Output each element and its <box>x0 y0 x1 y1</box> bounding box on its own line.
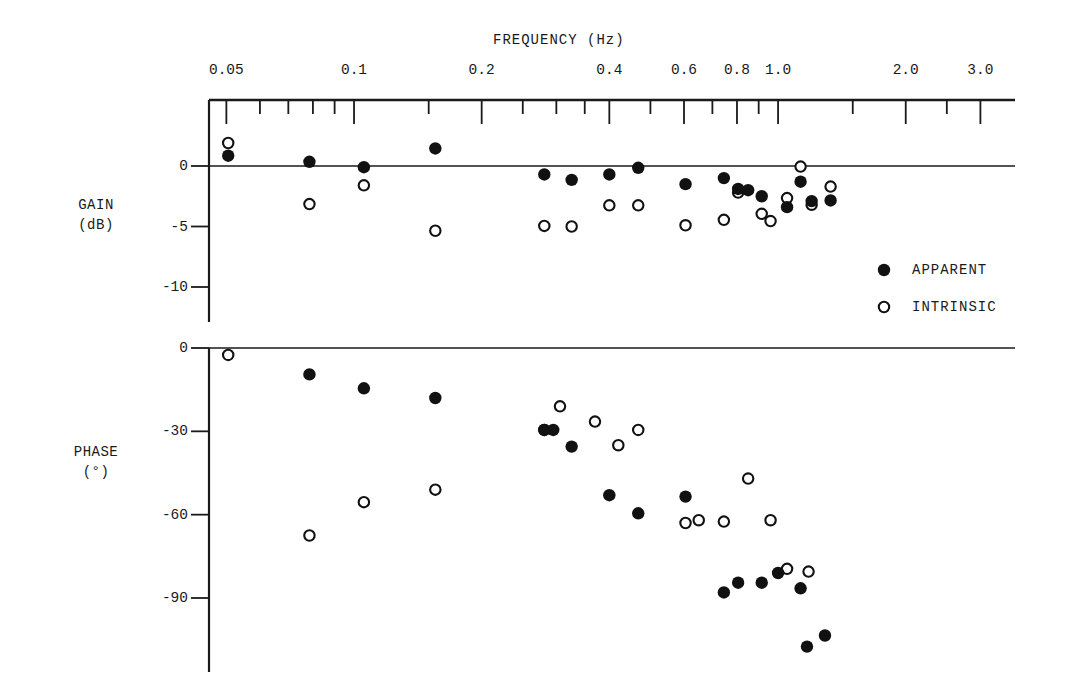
phase-intrinsic-point-9 <box>680 518 690 528</box>
gain-apparent-point-0 <box>222 150 234 162</box>
legend-markers <box>878 264 890 312</box>
gain-intrinsic-point-3 <box>430 226 440 236</box>
phase-apparent-point-12 <box>772 567 784 579</box>
gain-apparent-point-12 <box>756 190 768 202</box>
gain-intrinsic-point-0 <box>223 138 233 148</box>
phase-apparent-point-2 <box>429 392 441 404</box>
phase-apparent-point-10 <box>732 577 744 589</box>
gain-intrinsic-point-9 <box>719 215 729 225</box>
gain-intrinsic-point-16 <box>825 181 835 191</box>
phase-intrinsic-point-11 <box>719 516 729 526</box>
gain-apparent-point-6 <box>603 168 615 180</box>
phase-intrinsic-point-7 <box>613 440 623 450</box>
phase-intrinsic-point-2 <box>359 497 369 507</box>
phase-intrinsic-point-0 <box>223 350 233 360</box>
phase-apparent-point-4 <box>547 424 559 436</box>
phase-intrinsic-point-6 <box>590 416 600 426</box>
gain-apparent-point-13 <box>781 201 793 213</box>
gain-intrinsic-point-1 <box>304 199 314 209</box>
phase-intrinsic-point-10 <box>694 515 704 525</box>
gain-apparent-point-11 <box>742 184 754 196</box>
gain-apparent-point-2 <box>358 161 370 173</box>
phase-apparent-point-6 <box>603 489 615 501</box>
phase-intrinsic-point-12 <box>743 473 753 483</box>
gain-data-points <box>222 138 837 236</box>
gain-apparent-point-3 <box>429 142 441 154</box>
gain-apparent-point-9 <box>718 172 730 184</box>
phase-apparent-point-9 <box>718 586 730 598</box>
phase-apparent-point-15 <box>819 629 831 641</box>
gain-intrinsic-point-14 <box>795 161 805 171</box>
gain-intrinsic-point-6 <box>604 200 614 210</box>
phase-apparent-point-1 <box>358 382 370 394</box>
gain-intrinsic-point-5 <box>566 221 576 231</box>
gain-intrinsic-point-12 <box>765 216 775 226</box>
gain-apparent-point-5 <box>565 174 577 186</box>
phase-apparent-point-11 <box>756 577 768 589</box>
gain-apparent-point-8 <box>679 178 691 190</box>
gain-apparent-point-16 <box>824 194 836 206</box>
phase-data-points <box>223 350 831 653</box>
axes-layer <box>191 100 1015 672</box>
phase-apparent-point-5 <box>565 440 577 452</box>
gain-intrinsic-point-4 <box>539 221 549 231</box>
phase-apparent-point-14 <box>801 640 813 652</box>
gain-apparent-point-7 <box>632 162 644 174</box>
gain-apparent-point-4 <box>538 168 550 180</box>
phase-intrinsic-point-1 <box>304 530 314 540</box>
phase-apparent-point-8 <box>679 490 691 502</box>
phase-intrinsic-point-15 <box>803 566 813 576</box>
gain-intrinsic-point-8 <box>680 220 690 230</box>
plot-canvas <box>0 0 1068 693</box>
phase-apparent-point-13 <box>794 582 806 594</box>
phase-intrinsic-point-3 <box>430 484 440 494</box>
gain-apparent-point-15 <box>805 195 817 207</box>
phase-apparent-point-7 <box>632 507 644 519</box>
legend-marker-apparent <box>878 264 890 276</box>
gain-intrinsic-point-11 <box>757 209 767 219</box>
phase-intrinsic-point-8 <box>633 425 643 435</box>
phase-apparent-point-0 <box>303 368 315 380</box>
gain-apparent-point-1 <box>303 156 315 168</box>
gain-apparent-point-14 <box>794 176 806 188</box>
bode-plot-figure: FREQUENCY (Hz) GAIN (dB) PHASE (°) 0.050… <box>0 0 1068 693</box>
phase-intrinsic-point-5 <box>555 401 565 411</box>
gain-intrinsic-point-2 <box>359 180 369 190</box>
legend-marker-intrinsic <box>879 302 889 312</box>
gain-intrinsic-point-7 <box>633 200 643 210</box>
phase-intrinsic-point-13 <box>765 515 775 525</box>
